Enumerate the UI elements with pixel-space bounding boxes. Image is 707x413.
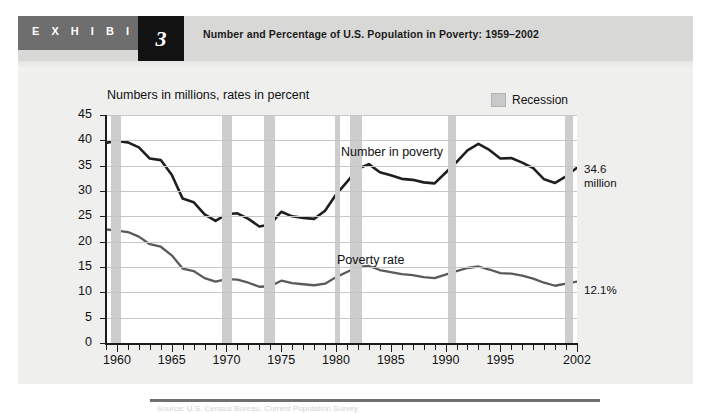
x-tick-mark-major (172, 345, 173, 352)
end-unit-number: million (584, 176, 617, 190)
recession-swatch-icon (491, 93, 506, 107)
y-tick-label: 25 (62, 208, 92, 222)
x-tick-mark-minor (413, 345, 414, 350)
x-tick-label: 1960 (95, 353, 139, 367)
x-tick-label: 1975 (259, 353, 303, 367)
x-tick-mark-minor (457, 345, 458, 350)
x-axis (105, 343, 578, 345)
x-tick-mark-major (391, 345, 392, 352)
exhibit-number: 3 (138, 16, 184, 61)
x-tick-mark-minor (347, 345, 348, 350)
y-axis (105, 115, 107, 344)
x-tick-mark-minor (478, 345, 479, 350)
recession-band (222, 115, 232, 343)
y-tick-label: 20 (62, 234, 92, 248)
exhibit-title: Number and Percentage of U.S. Population… (203, 28, 539, 40)
gridline (106, 242, 577, 243)
x-tick-label: 1995 (478, 353, 522, 367)
y-tick-label: 35 (62, 158, 92, 172)
x-tick-mark-minor (358, 345, 359, 350)
x-tick-mark-minor (106, 345, 107, 350)
series-label-number-in-poverty: Number in poverty (341, 145, 443, 159)
series-label-poverty-rate: Poverty rate (337, 253, 404, 267)
x-tick-mark-minor (270, 345, 271, 350)
recession-band (448, 115, 457, 343)
x-tick-mark-minor (467, 345, 468, 350)
exhibit-label: E X H I B I T (32, 25, 152, 37)
y-tick-label: 30 (62, 183, 92, 197)
x-tick-mark-major (577, 345, 578, 352)
y-tick-mark (100, 115, 106, 116)
y-tick-mark (100, 166, 106, 167)
gridline (106, 191, 577, 192)
x-tick-mark-minor (533, 345, 534, 350)
bottom-rule (150, 399, 600, 402)
y-tick-label: 5 (62, 310, 92, 324)
gridline (106, 166, 577, 167)
end-label-rate: 12.1% (584, 283, 617, 297)
x-tick-mark-minor (237, 345, 238, 350)
source-note: Source: U.S. Census Bureau, Current Popu… (157, 404, 607, 413)
recession-band (335, 115, 340, 343)
y-tick-label: 15 (62, 259, 92, 273)
recession-band (565, 115, 573, 343)
x-tick-label: 1970 (204, 353, 248, 367)
x-tick-mark-minor (544, 345, 545, 350)
y-tick-mark (100, 140, 106, 141)
x-tick-mark-major (281, 345, 282, 352)
x-tick-mark-major (117, 345, 118, 352)
end-value-rate: 12.1% (584, 283, 617, 297)
y-tick-label: 40 (62, 132, 92, 146)
x-tick-mark-minor (424, 345, 425, 350)
x-tick-mark-minor (566, 345, 567, 350)
x-tick-mark-minor (205, 345, 206, 350)
x-tick-mark-minor (216, 345, 217, 350)
x-tick-mark-minor (435, 345, 436, 350)
x-tick-mark-minor (511, 345, 512, 350)
x-tick-mark-minor (314, 345, 315, 350)
gridline (106, 267, 577, 268)
chart-legend: Recession (491, 93, 568, 107)
x-tick-mark-minor (194, 345, 195, 350)
recession-band (111, 115, 121, 343)
recession-band (264, 115, 275, 343)
x-tick-label: 1980 (314, 353, 358, 367)
x-tick-label: 1985 (369, 353, 413, 367)
y-tick-mark (100, 242, 106, 243)
y-tick-label: 10 (62, 284, 92, 298)
y-tick-mark (100, 267, 106, 268)
x-tick-label: 1965 (150, 353, 194, 367)
gridline (106, 115, 577, 116)
y-tick-mark (100, 216, 106, 217)
header-shadow (18, 61, 693, 71)
x-tick-mark-minor (161, 345, 162, 350)
x-tick-mark-minor (128, 345, 129, 350)
x-tick-mark-minor (489, 345, 490, 350)
x-tick-mark-minor (522, 345, 523, 350)
x-tick-mark-minor (555, 345, 556, 350)
end-value-number: 34.6 (584, 162, 617, 176)
y-tick-mark (100, 343, 106, 344)
y-tick-mark (100, 191, 106, 192)
end-label-number: 34.6 million (584, 162, 617, 190)
x-tick-mark-major (500, 345, 501, 352)
y-tick-mark (100, 292, 106, 293)
gridline (106, 292, 577, 293)
x-tick-mark-major (226, 345, 227, 352)
gridline (106, 216, 577, 217)
legend-label-recession: Recession (512, 93, 568, 107)
x-tick-mark-minor (380, 345, 381, 350)
x-tick-mark-minor (292, 345, 293, 350)
chart-axis-note: Numbers in millions, rates in percent (107, 88, 309, 102)
x-tick-mark-minor (402, 345, 403, 350)
y-tick-label: 45 (62, 107, 92, 121)
x-tick-mark-minor (248, 345, 249, 350)
y-tick-label: 0 (62, 335, 92, 349)
x-tick-mark-minor (325, 345, 326, 350)
x-tick-mark-minor (259, 345, 260, 350)
x-tick-mark-minor (139, 345, 140, 350)
gridline (106, 318, 577, 319)
gridline (106, 140, 577, 141)
x-tick-label: 1990 (424, 353, 468, 367)
